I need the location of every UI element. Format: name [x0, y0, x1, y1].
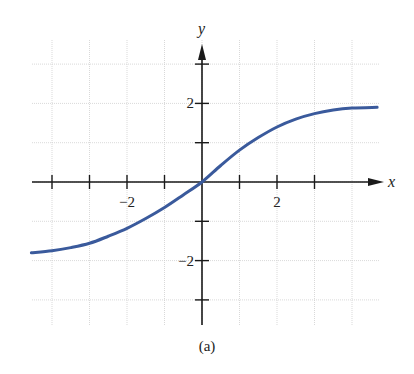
y-axis-arrow-icon	[198, 44, 206, 60]
x-axis-arrow-icon	[368, 178, 384, 186]
data-curve	[31, 107, 377, 252]
x-axis-label: x	[387, 173, 395, 190]
chart: −222−2 x y	[0, 0, 414, 374]
x-tick-label: −2	[119, 194, 135, 210]
y-tick-label: −2	[178, 253, 194, 269]
figure-caption: (a)	[0, 338, 414, 355]
y-axis-label: y	[196, 20, 206, 38]
y-tick-label: 2	[187, 95, 195, 111]
axes	[32, 44, 384, 325]
x-tick-label: 2	[273, 194, 281, 210]
